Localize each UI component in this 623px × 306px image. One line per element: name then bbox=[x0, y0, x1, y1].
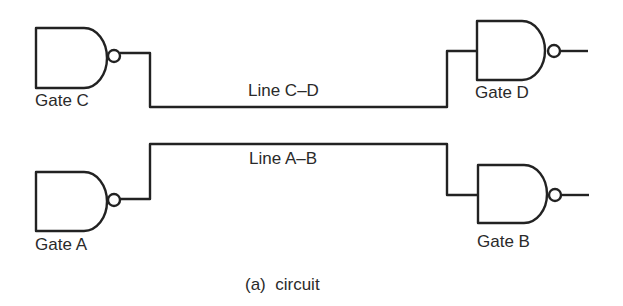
gate-a-label: Gate A bbox=[35, 236, 87, 253]
nand-gate-b-icon bbox=[478, 165, 547, 223]
figure-caption: (a) circuit bbox=[245, 276, 320, 293]
gate-c-label: Gate C bbox=[35, 92, 89, 109]
gate-d-label: Gate D bbox=[475, 84, 529, 101]
gate-a-inversion-bubble bbox=[108, 194, 120, 206]
nand-gate-d-icon bbox=[477, 21, 545, 80]
gate-b-label: Gate B bbox=[477, 233, 530, 250]
line-c-d-label: Line C–D bbox=[248, 82, 319, 99]
gate-d-inversion-bubble bbox=[548, 45, 560, 57]
gate-c-inversion-bubble bbox=[108, 50, 120, 62]
nand-gate-c-icon bbox=[36, 28, 107, 88]
gate-b-inversion-bubble bbox=[549, 189, 561, 201]
line-a-b-label: Line A–B bbox=[249, 150, 317, 167]
nand-gate-a-icon bbox=[36, 172, 107, 231]
